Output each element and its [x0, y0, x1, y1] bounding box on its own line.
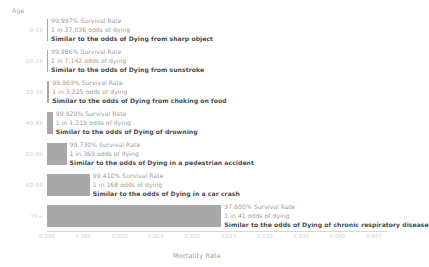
y-axis-tick-label: 20-29 — [26, 58, 43, 64]
y-axis-tick-label: 40-49 — [26, 120, 43, 126]
annotation-similar-odds: Similar to the odds of Dying from chokin… — [52, 96, 226, 105]
annotation-survival-rate: 99.986% Survival Rate — [51, 47, 204, 56]
bar-row: 60-6999.410% Survival Rate1 in 168 odds … — [47, 169, 387, 200]
bar-row: 20-2999.986% Survival Rate1 in 7,142 odd… — [47, 45, 387, 76]
y-axis-tick-label: 60-69 — [26, 182, 43, 188]
bar-row: 50-5999.730% Survival Rate1 in 369 odds … — [47, 138, 387, 169]
annotation-similar-odds: Similar to the odds of Dying in a car cr… — [93, 189, 240, 198]
annotation-similar-odds: Similar to the odds of Dying in a pedest… — [70, 158, 254, 167]
plot-area: 0-1999.997% Survival Rate1 in 37,036 odd… — [47, 14, 387, 231]
x-axis-tick-label: 0.010 — [112, 233, 128, 239]
bar-annotation: 99.410% Survival Rate1 in 168 odds of dy… — [90, 171, 240, 198]
bar — [47, 205, 221, 227]
annotation-similar-odds: Similar to the odds of Dying of drowning — [56, 127, 198, 136]
bar-annotation: 99.920% Survival Rate1 in 1,219 odds of … — [53, 109, 198, 136]
x-axis-tick-label: 0.030 — [257, 233, 273, 239]
y-axis-tick-label: 30-39 — [26, 89, 43, 95]
annotation-odds: 1 in 3,225 odds of dying — [52, 87, 226, 96]
bar — [47, 143, 67, 165]
x-axis-tick-label: 0.035 — [293, 233, 309, 239]
annotation-survival-rate: 99.920% Survival Rate — [56, 109, 198, 118]
annotation-odds: 1 in 369 odds of dying — [70, 149, 254, 158]
bar-annotation: 99.730% Survival Rate1 in 369 odds of dy… — [67, 140, 254, 167]
x-axis-tick-label: 0.005 — [75, 233, 91, 239]
annotation-odds: 1 in 1,219 odds of dying — [56, 118, 198, 127]
annotation-survival-rate: 99.730% Survival Rate — [70, 140, 254, 149]
x-axis-tick-label: 0.015 — [148, 233, 164, 239]
x-axis-tick-labels: 0.0000.0050.0100.0150.0200.0250.0300.035… — [47, 233, 387, 245]
y-axis-tick-label: 0-19 — [30, 27, 44, 33]
annotation-odds: 1 in 41 odds of dying — [224, 211, 428, 220]
bar-annotation: 99.997% Survival Rate1 in 37,036 odds of… — [48, 16, 213, 43]
annotation-odds: 1 in 7,142 odds of dying — [51, 56, 204, 65]
annotation-similar-odds: Similar to the odds of Dying from sunstr… — [51, 65, 204, 74]
annotation-survival-rate: 97.600% Survival Rate — [224, 202, 428, 211]
y-axis-title: Age — [12, 7, 25, 14]
x-axis-tick-label: 0.020 — [184, 233, 200, 239]
bar-row: 70+97.600% Survival Rate1 in 41 odds of … — [47, 200, 387, 231]
bar — [47, 174, 90, 196]
bar-row: 30-3999.969% Survival Rate1 in 3,225 odd… — [47, 76, 387, 107]
x-axis-tick-label: 0.025 — [221, 233, 237, 239]
x-axis-line — [47, 231, 387, 232]
bar-row: 40-4999.920% Survival Rate1 in 1,219 odd… — [47, 107, 387, 138]
y-axis-tick-label: 50-59 — [26, 151, 43, 157]
bar-annotation: 99.986% Survival Rate1 in 7,142 odds of … — [48, 47, 204, 74]
x-axis-tick-label: 0.000 — [39, 233, 55, 239]
x-axis-tick-label: 0.040 — [330, 233, 346, 239]
x-axis-title: Mortality Rate — [0, 252, 394, 260]
annotation-survival-rate: 99.969% Survival Rate — [52, 78, 226, 87]
y-axis-tick-label: 70+ — [31, 213, 43, 219]
annotation-similar-odds: Similar to the odds of Dying from sharp … — [51, 34, 213, 43]
annotation-similar-odds: Similar to the odds of Dying of chronic … — [224, 220, 428, 229]
x-axis-tick-label: 0.045 — [366, 233, 382, 239]
bar-annotation: 97.600% Survival Rate1 in 41 odds of dyi… — [221, 202, 428, 229]
bar-row: 0-1999.997% Survival Rate1 in 37,036 odd… — [47, 14, 387, 45]
annotation-odds: 1 in 37,036 odds of dying — [51, 25, 213, 34]
annotation-survival-rate: 99.410% Survival Rate — [93, 171, 240, 180]
bar-annotation: 99.969% Survival Rate1 in 3,225 odds of … — [49, 78, 226, 105]
annotation-survival-rate: 99.997% Survival Rate — [51, 16, 213, 25]
annotation-odds: 1 in 168 odds of dying — [93, 180, 240, 189]
